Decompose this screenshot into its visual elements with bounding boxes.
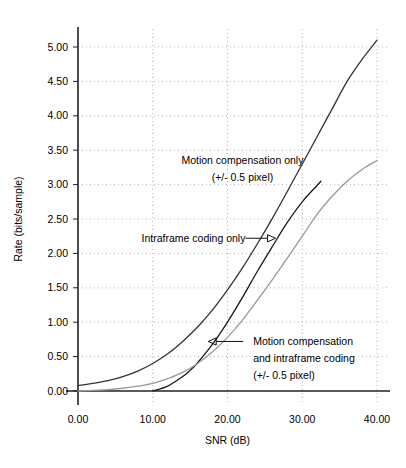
x-tick-label: 40.00	[364, 413, 390, 425]
annotations: Motion compensation only(+/- 0.5 pixel)I…	[142, 154, 355, 381]
annotation-line: Motion compensation only	[181, 154, 304, 166]
y-tick-label: 2.00	[48, 247, 69, 259]
y-tick-label: 2.50	[48, 213, 69, 225]
y-tick-label: 4.50	[48, 75, 69, 87]
y-tick-label: 3.50	[48, 144, 69, 156]
annotation-line: Motion compensation	[253, 335, 353, 347]
annotation-arrowhead	[268, 235, 276, 242]
x-axis-title: SNR (dB)	[205, 434, 250, 446]
x-tick-label: 0.00	[68, 413, 89, 425]
y-axis-title: Rate (bits/sample)	[12, 176, 24, 261]
y-tick-label: 4.00	[48, 109, 69, 121]
x-tick-label: 10.00	[140, 413, 166, 425]
annotation-motion-compensation-and-intraframe-coding: Motion compensationand intraframe coding…	[208, 335, 355, 381]
chart-svg: Motion compensation only(+/- 0.5 pixel)I…	[0, 0, 406, 468]
annotation-line: Intraframe coding only	[142, 232, 247, 244]
axis-lines	[66, 27, 390, 405]
y-tick-label: 3.00	[48, 178, 69, 190]
gridlines	[78, 29, 390, 405]
y-tick-label: 1.00	[48, 316, 69, 328]
annotation-line: (+/- 0.5 pixel)	[253, 369, 315, 381]
annotation-motion-compensation-only: Motion compensation only(+/- 0.5 pixel)	[181, 154, 304, 183]
annotation-line: and intraframe coding	[253, 352, 355, 364]
y-tick-label: 1.50	[48, 281, 69, 293]
x-tick-label: 20.00	[214, 413, 240, 425]
annotation-intraframe-coding-only: Intraframe coding only	[142, 232, 276, 244]
chart-figure: Motion compensation only(+/- 0.5 pixel)I…	[0, 0, 406, 468]
y-tick-label: 0.00	[48, 385, 69, 397]
y-tick-label: 5.00	[48, 41, 69, 53]
y-tick-label: 0.50	[48, 350, 69, 362]
x-tick-label: 30.00	[289, 413, 315, 425]
annotation-line: (+/- 0.5 pixel)	[212, 171, 274, 183]
